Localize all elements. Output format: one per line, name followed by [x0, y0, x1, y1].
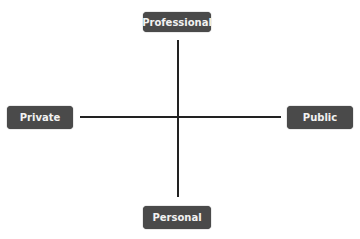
node-public: Public — [287, 106, 353, 129]
node-personal: Personal — [143, 206, 211, 229]
horizontal-axis — [80, 116, 281, 118]
node-label: Public — [303, 112, 337, 123]
vertical-axis — [177, 40, 179, 197]
node-professional: Professional — [143, 12, 211, 32]
node-private: Private — [7, 106, 73, 129]
node-label: Professional — [142, 17, 212, 28]
node-label: Personal — [152, 212, 201, 223]
node-label: Private — [20, 112, 61, 123]
